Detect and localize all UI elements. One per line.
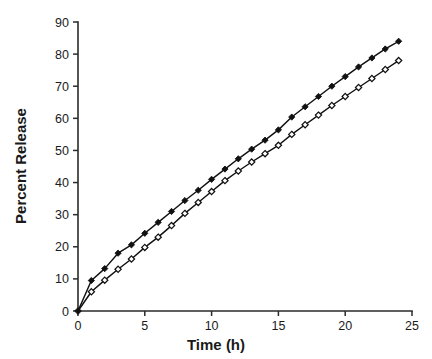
- y-tick-label: 20: [55, 240, 69, 254]
- series-line: [78, 61, 399, 311]
- x-axis-label: Time (h): [187, 336, 245, 353]
- y-tick-label: 10: [55, 272, 69, 286]
- y-tick-label: 40: [55, 176, 69, 190]
- x-tick-label: 0: [75, 319, 82, 333]
- y-tick-label: 30: [55, 208, 69, 222]
- filled-marker: [396, 38, 402, 44]
- y-tick-label: 60: [55, 112, 69, 126]
- data-series: [75, 38, 402, 314]
- x-tick-label: 5: [141, 319, 148, 333]
- series-1: [78, 38, 402, 311]
- x-axis-tick-labels: 0510152025: [75, 319, 419, 333]
- x-tick-label: 25: [405, 319, 419, 333]
- chart-canvas: 0510152025 0102030405060708090 Time (h) …: [0, 0, 432, 359]
- release-profile-chart: 0510152025 0102030405060708090 Time (h) …: [0, 0, 432, 359]
- y-tick-label: 80: [55, 48, 69, 62]
- series-2: [78, 57, 402, 311]
- x-tick-label: 20: [338, 319, 352, 333]
- series-line: [78, 41, 399, 311]
- y-tick-label: 0: [62, 305, 69, 319]
- x-tick-label: 15: [271, 319, 285, 333]
- y-axis-label: Percent Release: [12, 108, 29, 224]
- y-tick-label: 50: [55, 144, 69, 158]
- plot-area: 0510152025 0102030405060708090: [55, 16, 419, 334]
- x-tick-label: 10: [205, 319, 219, 333]
- y-tick-label: 70: [55, 80, 69, 94]
- y-axis-tick-labels: 0102030405060708090: [55, 16, 69, 319]
- y-tick-label: 90: [55, 16, 69, 30]
